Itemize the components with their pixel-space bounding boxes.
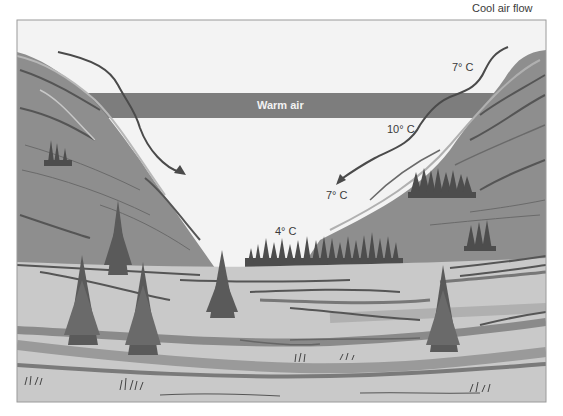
warm-air-label: Warm air [257,99,304,111]
temp-label-valley-floor: 4° C [275,225,297,237]
temperature-inversion-diagram [0,0,563,416]
temp-label-mid-right: 10° C [387,123,415,135]
temp-label-lower-mid: 7° C [326,189,348,201]
temp-label-top-right: 7° C [452,61,474,73]
cool-air-flow-label: Cool air flow [472,2,533,14]
